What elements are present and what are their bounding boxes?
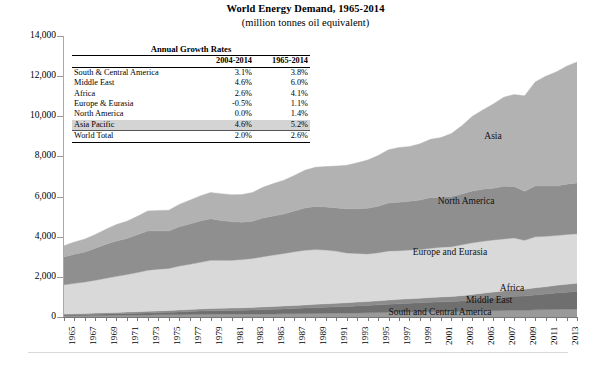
- growth-col-label: [72, 56, 198, 67]
- growth-table-row: Europe & Eurasia-0.5%1.1%: [72, 99, 310, 109]
- x-axis-tick: [85, 317, 86, 321]
- series-label-middle-east: Middle East: [466, 295, 512, 305]
- footer-divider: [28, 352, 568, 353]
- x-axis-year-label: 1995: [382, 326, 391, 345]
- x-axis-tick: [357, 317, 358, 321]
- x-axis-line: [63, 317, 577, 318]
- growth-row-2004-2014: 4.6%: [198, 78, 254, 88]
- growth-row-label: Asia Pacific: [72, 120, 198, 131]
- series-label-africa: Africa: [500, 283, 524, 293]
- x-axis-tick: [116, 317, 117, 321]
- x-axis-tick: [232, 317, 233, 321]
- growth-row-label: North America: [72, 109, 198, 119]
- x-axis-tick: [263, 317, 264, 321]
- growth-table-heading: Annual Growth Rates: [72, 44, 310, 55]
- x-axis-tick: [556, 317, 557, 321]
- x-axis-year-label: 1977: [194, 326, 203, 345]
- x-axis-year-label: 1975: [173, 326, 182, 345]
- x-axis-tick: [535, 317, 536, 321]
- x-axis-tick: [305, 317, 306, 321]
- x-axis-year-label: 1971: [131, 326, 140, 345]
- growth-table-row: Middle East4.6%6.0%: [72, 78, 310, 88]
- x-axis-tick: [64, 317, 65, 321]
- x-axis-tick: [451, 317, 452, 321]
- x-axis-tick: [483, 317, 484, 321]
- growth-row-label: Europe & Eurasia: [72, 99, 198, 109]
- x-axis-year-label: 1965: [68, 326, 77, 345]
- y-axis-tick-label: 0: [4, 312, 56, 322]
- x-axis-tick: [200, 317, 201, 321]
- y-axis-tick-label: 8,000: [4, 151, 56, 161]
- x-axis-tick: [567, 317, 568, 321]
- growth-row-2004-2014: 3.1%: [198, 67, 254, 78]
- series-label-north-america: North America: [438, 196, 495, 206]
- x-axis-year-label: 2011: [550, 327, 559, 345]
- x-axis-tick: [336, 317, 337, 321]
- growth-table-row: Africa2.6%4.1%: [72, 89, 310, 99]
- x-axis-tick: [420, 317, 421, 321]
- x-axis-tick: [315, 317, 316, 321]
- growth-table-header-row: 2004-2014 1965-2014: [72, 56, 310, 67]
- x-axis-tick: [74, 317, 75, 321]
- x-axis-year-label: 1997: [403, 326, 412, 345]
- y-axis-tick-label: 2,000: [4, 272, 56, 282]
- growth-row-1965-2014: 1.4%: [254, 109, 310, 119]
- x-axis-tick: [472, 317, 473, 321]
- x-axis-year-label: 1967: [89, 326, 98, 345]
- growth-table-row: North America0.0%1.4%: [72, 109, 310, 119]
- growth-row-2004-2014: 4.6%: [198, 120, 254, 131]
- y-axis-tick-label: 14,000: [4, 31, 56, 41]
- x-axis-tick: [546, 317, 547, 321]
- x-axis-tick: [169, 317, 170, 321]
- x-axis-tick: [221, 317, 222, 321]
- growth-table-body: South & Central America3.1%3.8%Middle Ea…: [72, 67, 310, 142]
- x-axis-tick: [368, 317, 369, 321]
- x-axis-tick: [577, 317, 578, 321]
- x-axis-year-label: 2003: [466, 326, 475, 345]
- growth-row-label: South & Central America: [72, 67, 198, 78]
- x-axis-tick: [252, 317, 253, 321]
- x-axis-tick: [378, 317, 379, 321]
- x-axis-tick: [137, 317, 138, 321]
- growth-row-2004-2014: 2.6%: [198, 89, 254, 99]
- x-axis-tick: [430, 317, 431, 321]
- y-axis-tick-label: 10,000: [4, 111, 56, 121]
- x-axis-tick: [399, 317, 400, 321]
- x-axis-year-label: 2009: [529, 326, 538, 345]
- x-axis-year-label: 1981: [236, 326, 245, 345]
- x-axis-year-label: 2007: [508, 326, 517, 345]
- x-axis-year-label: 2013: [571, 326, 580, 345]
- x-axis-tick: [389, 317, 390, 321]
- x-axis-year-label: 1993: [361, 326, 370, 345]
- x-axis-tick: [148, 317, 149, 321]
- growth-row-1965-2014: 4.1%: [254, 89, 310, 99]
- y-axis-tick-label: 4,000: [4, 232, 56, 242]
- y-axis-tick-label: 6,000: [4, 192, 56, 202]
- x-axis-year-label: 1979: [215, 326, 224, 345]
- series-label-asia: Asia: [484, 131, 501, 141]
- growth-row-2004-2014: 0.0%: [198, 109, 254, 119]
- x-axis-year-label: 1999: [424, 326, 433, 345]
- growth-row-2004-2014: 2.0%: [198, 131, 254, 142]
- x-axis-tick: [190, 317, 191, 321]
- growth-row-1965-2014: 3.8%: [254, 67, 310, 78]
- page-subtitle: (million tonnes oil equivalent): [0, 17, 611, 28]
- x-axis-year-label: 1989: [319, 326, 328, 345]
- growth-col-2004-2014: 2004-2014: [198, 56, 254, 67]
- x-axis-tick: [95, 317, 96, 321]
- x-axis-year-label: 2001: [445, 326, 454, 345]
- x-axis-year-label: 1973: [152, 326, 161, 345]
- y-axis-labels: 02,0004,0006,0008,00010,00012,00014,000: [0, 0, 56, 370]
- x-axis-tick: [284, 317, 285, 321]
- growth-row-label: Africa: [72, 89, 198, 99]
- x-axis-tick: [514, 317, 515, 321]
- x-axis-tick: [106, 317, 107, 321]
- chart-page: World Energy Demand, 1965-2014 (million …: [0, 0, 611, 370]
- x-axis-year-label: 1969: [110, 326, 119, 345]
- x-axis-tick: [347, 317, 348, 321]
- series-label-europe-and-eurasia: Europe and Eurasia: [413, 247, 487, 257]
- growth-table-row: Asia Pacific4.6%5.2%: [72, 120, 310, 131]
- x-axis-year-label: 2005: [487, 326, 496, 345]
- growth-col-1965-2014: 1965-2014: [254, 56, 310, 67]
- x-axis-year-label: 1991: [340, 326, 349, 345]
